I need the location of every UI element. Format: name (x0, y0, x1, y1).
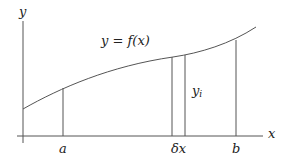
strip-height-label: yi (191, 83, 202, 99)
tick-label-a: a (59, 141, 67, 156)
x-axis-label: x (268, 126, 276, 141)
y-axis-label: y (18, 4, 27, 19)
tick-label-delta-x: δx (171, 141, 187, 156)
integral-diagram: y x y = f(x) yi a δx b (0, 0, 289, 157)
curve-label: y = f(x) (100, 33, 150, 48)
tick-label-b: b (232, 141, 240, 156)
